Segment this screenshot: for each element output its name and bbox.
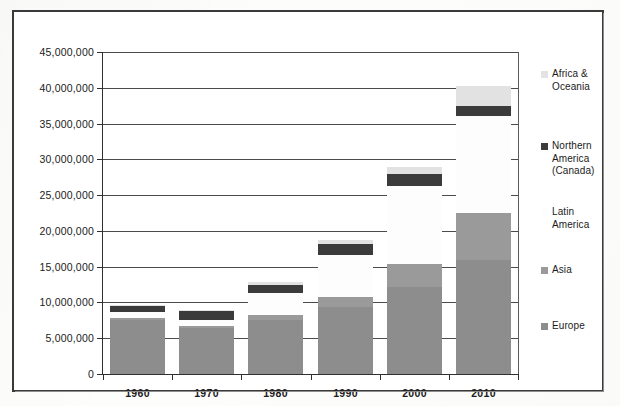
- y-axis-tick: [97, 231, 103, 232]
- x-axis-tick: [311, 374, 312, 380]
- bar-segment: [248, 282, 303, 284]
- bar-segment: [179, 311, 234, 320]
- bar-segment: [387, 264, 442, 287]
- bar-segment: [248, 285, 303, 294]
- legend-item[interactable]: Africa & Oceania: [541, 68, 613, 93]
- y-axis-label: 10,000,000: [39, 296, 94, 308]
- legend-item[interactable]: Asia: [541, 264, 572, 277]
- y-axis-label: 20,000,000: [39, 225, 94, 237]
- bar-segment: [318, 240, 373, 244]
- y-axis-label: 15,000,000: [39, 261, 94, 273]
- legend-item[interactable]: Northern America (Canada): [541, 140, 613, 178]
- bar-segment: [387, 167, 442, 173]
- legend-item[interactable]: Latin America: [541, 206, 613, 231]
- bar-segment: [110, 306, 165, 312]
- y-axis-label: 25,000,000: [39, 189, 94, 201]
- y-axis-label: 40,000,000: [39, 82, 94, 94]
- bar-segment: [318, 307, 373, 374]
- legend-label: Europe: [552, 320, 585, 333]
- legend-label: Northern America (Canada): [552, 140, 613, 178]
- bar-segment: [110, 305, 165, 306]
- y-axis-tick: [97, 159, 103, 160]
- y-axis-tick: [97, 338, 103, 339]
- plot-area: 45,000,00040,000,00035,000,00030,000,000…: [102, 52, 518, 375]
- chart-frame-border: 45,000,00040,000,00035,000,00030,000,000…: [12, 10, 604, 392]
- bar-segment: [110, 312, 165, 318]
- bar-segment: [179, 328, 234, 374]
- bar-segment: [456, 260, 511, 374]
- x-axis-label-1990: 1990: [318, 387, 373, 399]
- x-axis-tick: [380, 374, 381, 380]
- y-axis-tick: [97, 302, 103, 303]
- legend-swatch-icon: [541, 209, 548, 216]
- bar-segment: [179, 320, 234, 326]
- x-axis-tick: [449, 374, 450, 380]
- bar-segment: [456, 106, 511, 117]
- bar-segment: [248, 320, 303, 374]
- x-axis-label-1980: 1980: [248, 387, 303, 399]
- legend-swatch-icon: [541, 267, 548, 274]
- x-axis-label-2010: 2010: [456, 387, 511, 399]
- x-axis-tick: [241, 374, 242, 380]
- bar-segment: [387, 186, 442, 264]
- y-axis-tick: [97, 267, 103, 268]
- plot-right-edge: [518, 52, 519, 374]
- bar-segment: [179, 310, 234, 311]
- y-axis-label: 45,000,000: [39, 46, 94, 58]
- x-axis-label-2000: 2000: [387, 387, 442, 399]
- x-axis-label-1960: 1960: [110, 387, 165, 399]
- x-axis-tick: [518, 374, 519, 380]
- y-axis-tick: [97, 124, 103, 125]
- y-axis-label: 0: [88, 368, 94, 380]
- bar-segment: [456, 213, 511, 260]
- x-axis-label-1970: 1970: [179, 387, 234, 399]
- bar-segment: [387, 174, 442, 186]
- chart-page: 45,000,00040,000,00035,000,00030,000,000…: [0, 0, 620, 406]
- legend-swatch-icon: [541, 323, 548, 330]
- bar-segment: [179, 326, 234, 328]
- bar-segment: [110, 318, 165, 319]
- x-axis-tick: [103, 374, 104, 380]
- y-axis-label: 35,000,000: [39, 118, 94, 130]
- bar-segment: [248, 315, 303, 320]
- bar-segment: [456, 116, 511, 213]
- bar-segment: [387, 287, 442, 374]
- bar-segment: [318, 255, 373, 297]
- y-axis-label: 30,000,000: [39, 153, 94, 165]
- bar-segment: [248, 293, 303, 315]
- bar-segment: [456, 86, 511, 105]
- y-axis-tick: [97, 195, 103, 196]
- gridline: [103, 52, 518, 53]
- x-axis-tick: [172, 374, 173, 380]
- bar-segment: [318, 297, 373, 308]
- bar-segment: [318, 244, 373, 255]
- y-axis-tick: [97, 52, 103, 53]
- legend-label: Latin America: [552, 206, 613, 231]
- legend-swatch-icon: [541, 71, 548, 78]
- bar-segment: [110, 320, 165, 374]
- legend-label: Africa & Oceania: [552, 68, 613, 93]
- legend-swatch-icon: [541, 143, 548, 150]
- legend-item[interactable]: Europe: [541, 320, 585, 333]
- y-axis-tick: [97, 88, 103, 89]
- y-axis-label: 5,000,000: [45, 332, 94, 344]
- legend-label: Asia: [552, 264, 572, 277]
